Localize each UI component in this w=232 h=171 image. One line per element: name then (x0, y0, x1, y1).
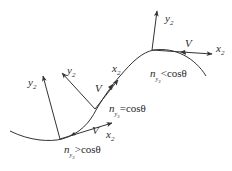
svg-text:x2: x2 (111, 62, 121, 77)
condition-sub2: 2 (72, 155, 75, 160)
x-axis-arrow-icon (60, 123, 112, 139)
x-sub: 2 (221, 49, 225, 57)
v-label: V (92, 124, 100, 136)
x-sub: 2 (111, 135, 115, 143)
v-label: V (185, 37, 193, 49)
y-sub: 2 (170, 19, 174, 27)
svg-text:y2: y2 (66, 64, 76, 79)
svg-text:x2: x2 (215, 42, 225, 57)
y-axis-arrow-icon (62, 73, 95, 109)
svg-text:ny2=cosθ: ny2=cosθ (109, 102, 146, 119)
v-label: V (95, 82, 103, 94)
svg-text:x2: x2 (105, 128, 115, 143)
y-axis-arrow-icon (43, 76, 60, 139)
svg-text:y2: y2 (27, 76, 37, 91)
frame-top: y2 V x2 ny2<cosθ (150, 11, 225, 84)
condition-rel: >cosθ (75, 143, 101, 155)
condition-rel: <cosθ (161, 67, 187, 79)
condition-rel: =cosθ (120, 102, 146, 114)
trajectory-diagram: y2 V x2 ny2>cosθ y2 V x2 ny2=cosθ y2 V (0, 0, 232, 171)
x-sub: 2 (117, 69, 121, 77)
svg-text:ny2<cosθ: ny2<cosθ (150, 67, 187, 84)
trajectory-curve (10, 50, 206, 141)
svg-text:ny2>cosθ: ny2>cosθ (64, 143, 101, 160)
frame-middle: y2 V x2 ny2=cosθ (62, 62, 146, 119)
y-sub: 2 (33, 83, 37, 91)
y-axis-arrow-icon (152, 11, 157, 50)
condition-sub2: 2 (117, 114, 120, 119)
y-sub: 2 (72, 71, 76, 79)
svg-text:y2: y2 (164, 12, 174, 27)
x-axis-arrow-icon (152, 50, 212, 54)
condition-sub2: 2 (158, 79, 161, 84)
